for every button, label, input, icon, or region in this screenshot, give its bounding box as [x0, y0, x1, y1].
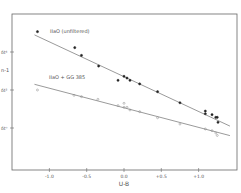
data-point [215, 132, 217, 134]
data-point [98, 65, 100, 67]
fit-line [34, 84, 229, 135]
x-tick-label: -0.5 [82, 174, 91, 179]
x-tick-label: +0.5 [156, 174, 167, 179]
x-tick-label: -1.0 [45, 174, 54, 179]
data-point [126, 77, 128, 79]
data-point [217, 121, 219, 123]
legend-gg385: IIaO + GG 385 [49, 74, 85, 80]
data-point [123, 102, 125, 104]
data-point [123, 75, 125, 77]
y-tick-label: δt⁴ [1, 50, 8, 55]
y-axis-label: n-1 [1, 67, 9, 73]
data-point [179, 123, 181, 125]
data-point [179, 102, 181, 104]
x-tick-label: 0.0 [120, 174, 127, 179]
data-point [216, 134, 218, 136]
plot-frame [12, 14, 237, 170]
data-series [34, 31, 229, 137]
data-point [129, 79, 131, 81]
data-point [117, 79, 119, 81]
data-point [204, 113, 206, 115]
data-point [74, 47, 76, 49]
data-point [139, 83, 141, 85]
data-point [211, 114, 213, 116]
x-axis-label: U-B [119, 180, 129, 187]
fit-line [34, 35, 229, 126]
data-point [216, 116, 218, 118]
x-tick-label: +1.0 [193, 174, 204, 179]
data-point [36, 89, 38, 91]
data-point [157, 117, 159, 119]
data-point [36, 31, 38, 33]
data-point [80, 54, 82, 56]
data-point [126, 106, 128, 108]
legend-unfiltered: IIaO (unfiltered) [50, 28, 90, 34]
data-point [204, 110, 206, 112]
scatter-chart: -1.0-0.50.0+0.5+1.0 δt⁴δt²δt⁰ U-B n-1 II… [0, 0, 241, 193]
y-tick-label: δt⁰ [1, 126, 8, 131]
data-point [97, 98, 99, 100]
y-tick-label: δt² [1, 88, 8, 93]
data-point [156, 91, 158, 93]
